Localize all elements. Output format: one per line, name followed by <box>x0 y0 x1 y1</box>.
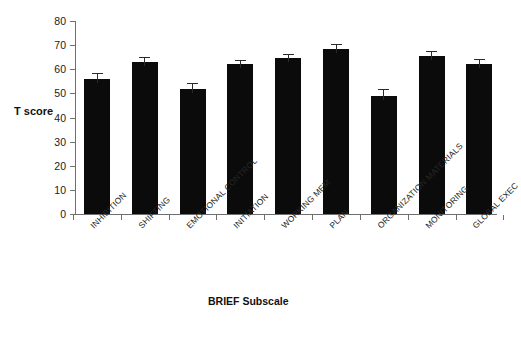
y-axis-tick-label-wrap: 20 <box>22 161 66 172</box>
bar <box>227 64 253 214</box>
y-axis-tick-label-wrap: 80 <box>22 16 66 27</box>
bar-group <box>275 21 301 214</box>
bar-group <box>180 21 206 214</box>
y-axis-tick-label-wrap: 30 <box>22 137 66 148</box>
error-bar <box>240 61 241 69</box>
error-bar <box>431 52 432 60</box>
y-axis-tick-label-wrap: 0 <box>22 209 66 220</box>
error-bar-cap <box>426 51 437 52</box>
bar <box>371 96 397 214</box>
bar <box>466 64 492 214</box>
bar-group <box>466 21 492 214</box>
error-bar-cap <box>187 83 198 84</box>
error-bar-cap <box>283 54 294 55</box>
x-axis-tick <box>121 215 122 220</box>
y-axis-tick <box>70 190 76 191</box>
x-axis-tick <box>360 215 361 220</box>
y-axis-tick-label: 20 <box>26 161 66 172</box>
y-axis-tick-label: 50 <box>26 88 66 99</box>
y-axis-tick-label-wrap: 60 <box>22 64 66 75</box>
bar <box>180 89 206 214</box>
y-axis-tick-label: 30 <box>26 137 66 148</box>
x-axis-tick <box>264 215 265 220</box>
x-axis-title: BRIEF Subscale <box>208 295 289 307</box>
y-axis-tick-label: 10 <box>26 185 66 196</box>
x-axis-tick <box>503 215 504 220</box>
y-axis-tick-label-wrap: 50 <box>22 88 66 99</box>
y-axis-tick-label-wrap: 70 <box>22 40 66 51</box>
y-axis-tick <box>70 142 76 143</box>
y-axis-tick <box>70 21 76 22</box>
bar-group <box>371 21 397 214</box>
x-axis-tick <box>456 215 457 220</box>
x-axis-tick <box>169 215 170 220</box>
error-bar <box>383 90 384 100</box>
error-bar <box>97 74 98 83</box>
error-bar <box>336 45 337 53</box>
error-bar-cap <box>139 57 150 58</box>
y-axis-tick <box>70 93 76 94</box>
error-bar-cap <box>378 89 389 90</box>
y-axis-tick-label: 80 <box>26 16 66 27</box>
x-axis-tick <box>312 215 313 220</box>
x-axis-tick <box>216 215 217 220</box>
y-axis-tick-label: 60 <box>26 64 66 75</box>
bar <box>84 79 110 214</box>
error-bar <box>479 60 480 68</box>
x-axis-tick <box>408 215 409 220</box>
y-axis-tick-label: 40 <box>26 113 66 124</box>
error-bar-cap <box>235 60 246 61</box>
error-bar <box>192 84 193 93</box>
bar-group <box>84 21 110 214</box>
y-axis-tick-label-wrap: 40 <box>22 113 66 124</box>
error-bar-cap <box>331 44 342 45</box>
y-axis-tick <box>70 118 76 119</box>
error-bar <box>144 58 145 66</box>
error-bar-cap <box>474 59 485 60</box>
y-axis-tick-label-wrap: 10 <box>22 185 66 196</box>
error-bar-cap <box>92 73 103 74</box>
y-axis-tick-label: 0 <box>26 209 66 220</box>
y-axis-tick <box>70 45 76 46</box>
bar <box>419 56 445 214</box>
y-axis-tick <box>70 69 76 70</box>
x-axis-tick <box>73 215 74 220</box>
y-axis-tick <box>70 166 76 167</box>
bar <box>132 62 158 214</box>
error-bar <box>288 55 289 63</box>
bar <box>275 58 301 214</box>
y-axis-tick-label: 70 <box>26 40 66 51</box>
bar-group <box>132 21 158 214</box>
